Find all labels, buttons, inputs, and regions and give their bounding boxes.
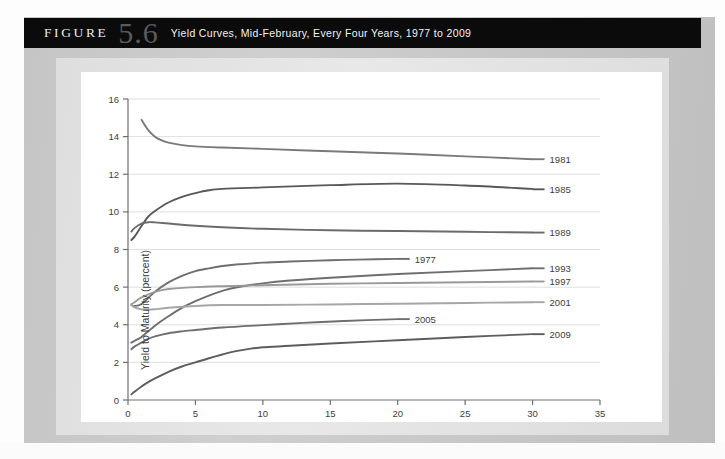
page-edge-top <box>0 0 725 17</box>
series-line-2005 <box>131 319 397 349</box>
y-axis-tick-label: 8 <box>114 244 119 255</box>
x-axis-tick-label: 5 <box>193 408 198 419</box>
page-edge-left <box>0 0 24 459</box>
series-label-1997: 1997 <box>550 276 571 287</box>
y-axis-tick-label: 0 <box>114 395 119 406</box>
y-axis-tick-label: 10 <box>108 206 119 217</box>
page-edge-bottom <box>0 443 725 459</box>
y-axis-tick-label: 12 <box>108 169 119 180</box>
figure-page: FIGURE 5.6 Yield Curves, Mid-February, E… <box>0 0 725 459</box>
series-label-1985: 1985 <box>550 184 571 195</box>
y-axis-tick-label: 2 <box>114 357 119 368</box>
x-axis-tick-label: 35 <box>595 408 606 419</box>
figure-number: 5.6 <box>118 18 159 48</box>
x-axis-tick-label: 0 <box>125 408 130 419</box>
y-axis-title: Yield to Maturity (percent) <box>139 250 151 370</box>
y-axis-tick-label: 4 <box>114 319 119 330</box>
x-axis-tick-label: 20 <box>392 408 403 419</box>
figure-header-bar: FIGURE 5.6 Yield Curves, Mid-February, E… <box>24 18 701 48</box>
y-axis-tick-label: 16 <box>108 94 119 105</box>
figure-label: FIGURE <box>44 25 108 41</box>
chart-area: 0246810121416051015202530351977198119851… <box>81 72 662 422</box>
x-axis-tick-label: 30 <box>527 408 538 419</box>
series-label-1989: 1989 <box>550 227 571 238</box>
figure-caption: Yield Curves, Mid-February, Every Four Y… <box>171 27 471 39</box>
page-edge-right <box>715 0 725 459</box>
series-label-1977: 1977 <box>415 254 436 265</box>
series-label-2009: 2009 <box>550 329 571 340</box>
y-axis-tick-label: 14 <box>108 131 119 142</box>
series-line-1989 <box>131 222 532 232</box>
series-label-1981: 1981 <box>550 154 571 165</box>
x-axis-tick-label: 25 <box>460 408 471 419</box>
series-label-2001: 2001 <box>550 297 571 308</box>
x-axis-tick-label: 15 <box>325 408 336 419</box>
y-axis-tick-label: 6 <box>114 282 119 293</box>
series-label-2005: 2005 <box>415 314 436 325</box>
series-line-2009 <box>131 334 532 394</box>
series-label-1993: 1993 <box>550 263 571 274</box>
series-line-1997 <box>131 281 532 304</box>
series-line-1981 <box>141 120 532 160</box>
yield-curve-chart: 0246810121416051015202530351977198119851… <box>81 72 662 422</box>
x-axis-tick-label: 10 <box>258 408 269 419</box>
